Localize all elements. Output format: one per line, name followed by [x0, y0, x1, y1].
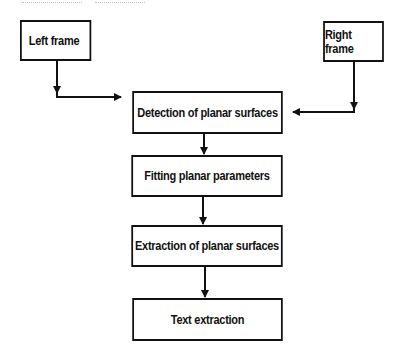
extraction-label: Extraction of planar surfaces	[135, 239, 279, 253]
right-frame-label: Right frame	[325, 28, 382, 56]
left-frame-label: Left frame	[29, 34, 80, 48]
text-extraction-box: Text extraction	[132, 298, 282, 341]
fitting-label: Fitting planar parameters	[144, 169, 269, 183]
left-frame-box: Left frame	[20, 20, 91, 61]
text-extraction-label: Text extraction	[171, 313, 244, 327]
extraction-box: Extraction of planar surfaces	[131, 225, 282, 267]
detection-label: Detection of planar surfaces	[137, 106, 278, 120]
fitting-box: Fitting planar parameters	[131, 155, 282, 197]
detection-box: Detection of planar surfaces	[132, 91, 282, 134]
right-frame-box: Right frame	[323, 21, 384, 62]
